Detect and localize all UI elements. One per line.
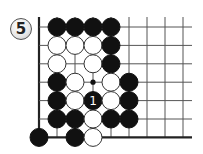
move-number: 1 <box>89 94 97 108</box>
white-stone <box>48 36 66 54</box>
white-stone <box>66 36 84 54</box>
black-stone <box>102 55 120 73</box>
black-stone <box>102 110 120 128</box>
black-stone <box>48 110 66 128</box>
star-point-icon <box>90 80 95 85</box>
white-stone <box>66 73 84 91</box>
white-stone <box>48 55 66 73</box>
black-stone-labeled: 1 <box>84 92 102 110</box>
white-stone <box>66 92 84 110</box>
black-stone <box>102 18 120 36</box>
black-stone <box>120 92 138 110</box>
black-stone <box>66 18 84 36</box>
white-stone <box>102 92 120 110</box>
black-stone <box>48 73 66 91</box>
go-board[interactable]: 1 <box>0 0 203 154</box>
white-stone <box>84 110 102 128</box>
white-stone <box>84 128 102 146</box>
black-stone <box>30 128 48 146</box>
black-stone <box>102 36 120 54</box>
black-stone <box>84 18 102 36</box>
white-stone <box>102 73 120 91</box>
black-stone <box>120 110 138 128</box>
white-stone <box>84 55 102 73</box>
star-points <box>90 80 95 85</box>
white-stone <box>84 36 102 54</box>
black-stone <box>120 73 138 91</box>
black-stone <box>66 110 84 128</box>
black-stone <box>48 92 66 110</box>
black-stone <box>48 18 66 36</box>
black-stone <box>66 128 84 146</box>
